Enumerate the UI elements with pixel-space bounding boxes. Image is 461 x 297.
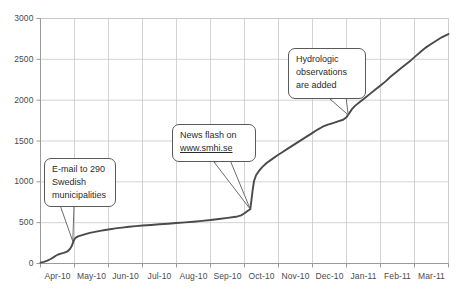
annotation-callout-email-municipalities: E-mail to 290Swedishmunicipalities — [44, 158, 116, 207]
annotation-line: Swedish — [52, 176, 109, 189]
annotation-line: News flash on — [180, 129, 249, 142]
y-tick-label: 0 — [0, 258, 34, 268]
x-tick-label: Mar-11 — [408, 271, 456, 281]
annotation-line: observations — [296, 66, 359, 79]
annotation-url[interactable]: www.smhi.se — [180, 142, 249, 155]
y-tick-label: 3000 — [0, 13, 34, 23]
y-tick-label: 1500 — [0, 136, 34, 146]
y-tick-label: 2500 — [0, 54, 34, 64]
y-tick-label: 500 — [0, 217, 34, 227]
annotation-line: Hydrologic — [296, 53, 359, 66]
annotation-line: E-mail to 290 — [52, 163, 109, 176]
annotation-line: municipalities — [52, 189, 109, 202]
y-tick-label: 1000 — [0, 176, 34, 186]
chart-container: 050010001500200025003000 Apr-10May-10Jun… — [0, 0, 461, 297]
y-tick-label: 2000 — [0, 95, 34, 105]
annotation-callout-news-flash: News flash onwww.smhi.se — [172, 124, 256, 162]
annotation-callout-hydrologic-observations: Hydrologicobservationsare added — [288, 48, 366, 99]
annotation-line: are added — [296, 79, 359, 92]
